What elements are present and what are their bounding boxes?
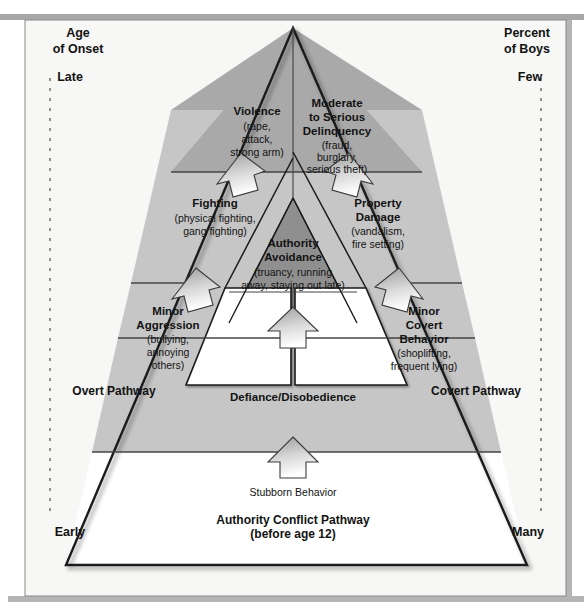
stage-moderate-serious-detail-1: (fraud, [322, 139, 352, 151]
authority-conflict-pathway-sub: (before age 12) [250, 527, 335, 541]
stage-minor-aggression-title-1: Minor [152, 305, 184, 317]
stage-property-damage-detail-1: (vandalism, [351, 225, 405, 237]
developmental-pathways-diagram: Age of Onset Late Early Percent of Boys … [0, 0, 584, 611]
stage-fighting-detail-1: (physical fighting, [174, 212, 255, 224]
stage-minor-aggression-title-2: Aggression [136, 319, 199, 331]
stage-fighting-title: Fighting [192, 197, 237, 209]
stage-violence-detail-3: strong arm) [230, 146, 284, 158]
stage-authority-avoidance-detail-1: (truancy, running [254, 266, 332, 278]
stage-moderate-serious-detail-3: serious theft) [307, 163, 368, 175]
stage-property-damage-detail-2: fire setting) [352, 238, 404, 250]
stage-minor-covert-title-2: Covert [406, 319, 443, 331]
right-axis-top-label: Few [518, 70, 543, 84]
stage-minor-covert-title-1: Minor [408, 305, 440, 317]
stage-moderate-serious-detail-2: burglary, [317, 151, 357, 163]
stage-violence-detail-1: (rape, [243, 120, 270, 132]
right-axis-bottom-label: Many [512, 525, 544, 539]
stage-violence-detail-2: attack, [242, 133, 273, 145]
right-axis-heading-line1: Percent [504, 26, 551, 40]
stage-minor-covert-detail-2: frequent lying) [391, 360, 458, 372]
stage-stubborn-title: Stubborn Behavior [250, 486, 337, 498]
covert-pathway-label: Covert Pathway [431, 384, 521, 398]
left-axis-heading-line2: of Onset [53, 42, 105, 56]
stage-minor-aggression-detail-1: (bullying, [147, 333, 189, 345]
stage-authority-avoidance-title-1: Authority [267, 237, 319, 249]
stage-moderate-serious-title-1: Moderate [311, 97, 362, 109]
left-axis-bottom-label: Early [55, 525, 86, 539]
stage-defiance-title: Defiance/Disobedience [230, 391, 356, 403]
right-gray-bar [566, 20, 572, 602]
authority-conflict-pathway-label: Authority Conflict Pathway [216, 513, 370, 527]
stage-property-damage-title-2: Damage [356, 211, 401, 223]
figure-root: Age of Onset Late Early Percent of Boys … [0, 0, 584, 611]
bottom-gray-bar [8, 596, 584, 602]
stage-minor-aggression-detail-3: others) [152, 359, 185, 371]
stage-moderate-serious-title-2: to Serious [309, 111, 365, 123]
right-axis-heading-line2: of Boys [504, 42, 550, 56]
stage-minor-covert-detail-1: (shoplifting, [397, 347, 451, 359]
stage-property-damage-title-1: Property [354, 197, 402, 209]
stage-moderate-serious-title-3: Delinquency [303, 125, 372, 137]
stage-authority-avoidance-title-2: Avoidance [264, 251, 322, 263]
left-axis-heading-line1: Age [66, 26, 90, 40]
stage-authority-avoidance-detail-2: away, staying out late) [241, 279, 345, 291]
stage-violence-title: Violence [233, 105, 280, 117]
stage-minor-covert-title-3: Behavior [399, 333, 449, 345]
stage-fighting-detail-2: gang fighting) [183, 225, 247, 237]
stage-minor-aggression-detail-2: annoying [147, 346, 190, 358]
left-axis-top-label: Late [57, 70, 83, 84]
overt-pathway-label: Overt Pathway [72, 384, 156, 398]
top-gray-bar [0, 14, 584, 20]
